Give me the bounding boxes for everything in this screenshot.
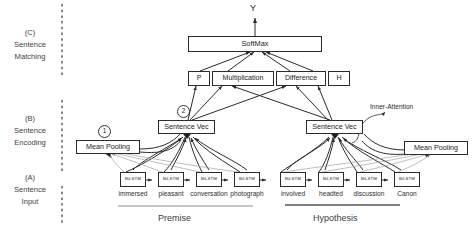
bilstm-hypothesis-3[interactable]: BiLSTM xyxy=(356,172,382,187)
stage-a: (A) Sentence Input xyxy=(4,172,56,207)
marker-one: 1 xyxy=(98,125,111,138)
stage-c: (C) Sentence Matching xyxy=(4,27,56,62)
stage-b-line2: Encoding xyxy=(4,137,56,149)
hypothesis-section-label: Hypothesis xyxy=(313,212,358,224)
bilstm-premise-2[interactable]: BiLSTM xyxy=(158,172,184,187)
inner-attention-label: Inner-Attention xyxy=(370,103,413,112)
stage-c-line1: Sentence xyxy=(4,39,56,51)
model-architecture-diagram: Y SoftMax P Multiplication Difference H … xyxy=(0,0,476,236)
word-hypothesis-3: discussion xyxy=(343,190,395,199)
bilstm-hypothesis-1[interactable]: BiLSTM xyxy=(280,172,306,187)
premise-section-label: Premise xyxy=(158,212,191,224)
component-box-difference[interactable]: Difference xyxy=(276,71,326,86)
stage-b-line1: Sentence xyxy=(4,125,56,137)
bilstm-premise-4[interactable]: BiLSTM xyxy=(234,172,260,187)
bilstm-hypothesis-2[interactable]: BiLSTM xyxy=(318,172,344,187)
stage-a-line2: Input xyxy=(4,196,56,208)
bilstm-hypothesis-4[interactable]: BiLSTM xyxy=(394,172,420,187)
stage-b-tag: (B) xyxy=(4,113,56,125)
word-hypothesis-4: Canon xyxy=(389,190,425,199)
stage-a-tag: (A) xyxy=(4,172,56,184)
marker-two: 2 xyxy=(177,105,190,118)
bilstm-premise-1[interactable]: BiLSTM xyxy=(120,172,146,187)
stage-b: (B) Sentence Encoding xyxy=(4,113,56,148)
output-label: Y xyxy=(250,2,256,14)
component-box-h[interactable]: H xyxy=(328,71,350,86)
mean-pooling-hypothesis[interactable]: Mean Pooling xyxy=(404,141,468,155)
sentence-vec-premise[interactable]: Sentence Vec xyxy=(158,120,215,134)
word-premise-4: photograph xyxy=(221,190,273,199)
bilstm-premise-3[interactable]: BiLSTM xyxy=(196,172,222,187)
stage-a-line1: Sentence xyxy=(4,184,56,196)
component-box-p[interactable]: P xyxy=(188,71,210,86)
sentence-vec-hypothesis[interactable]: Sentence Vec xyxy=(306,120,363,134)
stage-c-tag: (C) xyxy=(4,27,56,39)
stage-c-line2: Matching xyxy=(4,51,56,63)
mean-pooling-premise[interactable]: Mean Pooling xyxy=(76,140,140,154)
softmax-box[interactable]: SoftMax xyxy=(188,36,322,52)
component-box-multiplication[interactable]: Multiplication xyxy=(212,71,274,86)
